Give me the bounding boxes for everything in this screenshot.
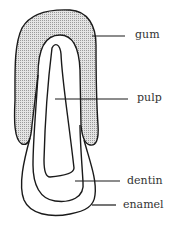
pulp-outline	[44, 45, 74, 177]
label-pulp: pulp	[137, 92, 162, 103]
label-enamel: enamel	[123, 199, 164, 210]
label-dentin: dentin	[127, 175, 163, 186]
label-gum: gum	[135, 29, 160, 40]
